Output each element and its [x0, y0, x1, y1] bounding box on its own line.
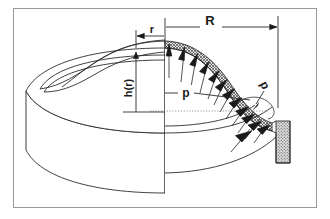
dimension-h-label: h(r) [122, 79, 134, 98]
figure-container: R r h(r) p d [0, 0, 330, 219]
ring-wall-stippled [276, 121, 290, 163]
pressure-label: p [182, 86, 189, 100]
dimension-R-label: R [205, 13, 215, 28]
dimension-r-label: r [150, 23, 155, 35]
dome-shell-diagram: R r h(r) p d [0, 0, 330, 219]
